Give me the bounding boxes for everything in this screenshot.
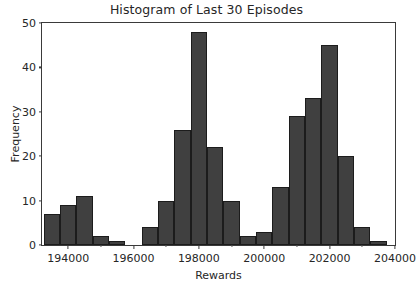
x-tick-mark [329,245,330,249]
histogram-bar [158,201,174,245]
y-tick-label: 40 [22,61,36,74]
chart-title: Histogram of Last 30 Episodes [0,2,413,17]
x-tick-label: 198000 [178,252,220,265]
histogram-bar [223,201,239,245]
y-tick-mark [39,244,43,245]
bars-layer [42,23,395,245]
y-tick-label: 10 [22,194,36,207]
y-tick-mark [39,200,43,201]
x-tick-minor-mark [100,245,101,247]
y-tick-mark [39,156,43,157]
histogram-bar [76,196,92,245]
histogram-bar [272,187,288,245]
y-tick-label: 0 [29,239,36,252]
x-tick-label: 194000 [47,252,89,265]
y-axis-label: Frequency [9,106,22,163]
y-tick-mark [39,22,43,23]
histogram-bar [60,205,76,245]
x-tick-minor-mark [362,245,363,247]
histogram-bar [289,116,305,245]
x-tick-label: 202000 [309,252,351,265]
x-tick-mark [68,245,69,249]
x-tick-mark [394,245,395,249]
x-tick-label: 200000 [243,252,285,265]
histogram-bar [93,236,109,245]
histogram-bar [174,130,190,245]
y-tick-label: 30 [22,105,36,118]
x-tick-minor-mark [296,245,297,247]
x-tick-mark [133,245,134,249]
y-tick-label: 20 [22,150,36,163]
histogram-bar [240,236,256,245]
histogram-bar [44,214,60,245]
histogram-bar [354,227,370,245]
y-tick-label: 50 [22,17,36,30]
x-tick-label: 196000 [113,252,155,265]
histogram-bar [191,32,207,245]
y-tick-mark [39,111,43,112]
x-tick-minor-mark [166,245,167,247]
histogram-bar [207,147,223,245]
x-tick-label: 204000 [374,252,416,265]
histogram-bar [370,241,386,245]
histogram-bar [338,156,354,245]
histogram-bar [256,232,272,245]
histogram-bar [109,241,125,245]
x-tick-mark [264,245,265,249]
x-tick-minor-mark [231,245,232,247]
histogram-bar [321,45,337,245]
y-tick-mark [39,67,43,68]
histogram-bar [142,227,158,245]
plot-area: Frequency Rewards 0102030405019400019600… [41,22,396,246]
x-tick-mark [198,245,199,249]
histogram-bar [305,98,321,245]
x-axis-label: Rewards [42,269,395,282]
